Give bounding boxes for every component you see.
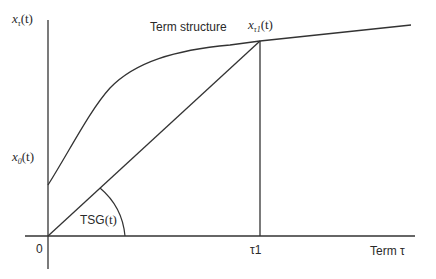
- y-axis-label-base: x: [12, 11, 18, 26]
- y-axis-label-arg: (t): [21, 11, 33, 26]
- diagram-canvas: [0, 0, 436, 279]
- angle-label-text: TSG: [80, 213, 105, 227]
- intercept-label-base: x: [12, 149, 18, 164]
- origin-label: 0: [36, 242, 43, 256]
- intercept-label: x0(t): [12, 150, 34, 166]
- y-axis-label: xτ(t): [12, 12, 33, 28]
- point-label-sub: τ1: [254, 25, 261, 34]
- tau1-tick-label: τ1: [250, 243, 261, 257]
- slope-line: [48, 41, 260, 236]
- curve-label: Term structure: [150, 20, 227, 34]
- point-label: xτ1(t): [248, 18, 273, 34]
- intercept-label-arg: (t): [22, 149, 34, 164]
- angle-label: TSG(t): [80, 213, 117, 227]
- point-label-base: x: [248, 17, 254, 32]
- y-axis-label-sub: τ: [18, 19, 21, 28]
- intercept-label-sub: 0: [18, 157, 22, 166]
- x-axis-label: Term τ: [370, 244, 405, 258]
- angle-label-arg: (t): [105, 212, 117, 227]
- point-label-arg: (t): [261, 17, 273, 32]
- term-structure-curve: [48, 25, 411, 185]
